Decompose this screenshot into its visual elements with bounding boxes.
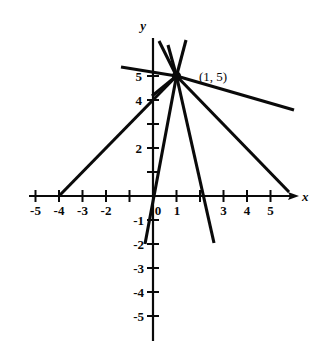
graph-canvas: -5 -4 -3 -2 0 1 3 4 5 5 4 2 -1 -2 -3 -4 …	[0, 0, 317, 357]
x-label-4: 4	[244, 203, 251, 218]
common-point-marker	[172, 71, 181, 80]
y-label-5: 5	[136, 69, 143, 84]
y-label--2: -2	[133, 237, 144, 252]
x-label-3: 3	[220, 203, 227, 218]
y-label--4: -4	[133, 285, 144, 300]
y-axis-label: y	[138, 18, 146, 33]
x-label-1: 1	[174, 203, 181, 218]
y-label--3: -3	[133, 261, 144, 276]
x-label--5: -5	[30, 203, 41, 218]
coordinate-graph-figure: -5 -4 -3 -2 0 1 3 4 5 5 4 2 -1 -2 -3 -4 …	[0, 0, 317, 357]
x-axis-label: x	[301, 189, 309, 204]
x-label--3: -3	[77, 203, 88, 218]
x-label-0: 0	[155, 203, 162, 218]
y-label--1: -1	[133, 213, 144, 228]
y-label-4: 4	[136, 93, 143, 108]
common-point-label: (1, 5)	[199, 69, 227, 84]
x-label--4: -4	[54, 203, 65, 218]
y-label--5: -5	[133, 309, 144, 324]
x-label--2: -2	[101, 203, 112, 218]
y-label-2: 2	[136, 141, 143, 156]
x-label-5: 5	[267, 203, 274, 218]
